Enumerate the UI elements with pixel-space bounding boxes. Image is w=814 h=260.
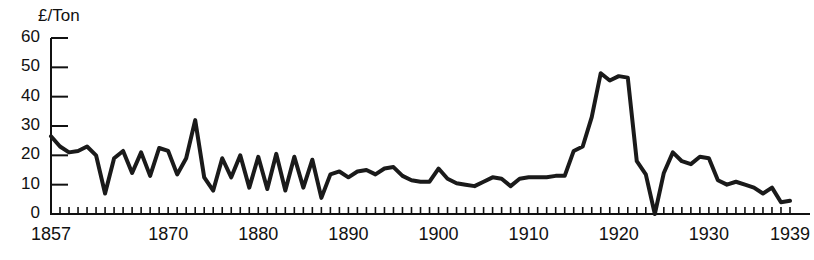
x-tick-label-1900: 1900 <box>418 224 458 245</box>
axis-frame <box>51 38 810 214</box>
x-tick-label-1920: 1920 <box>599 224 639 245</box>
x-tick-label-1880: 1880 <box>238 224 278 245</box>
y-tick-label-60: 60 <box>6 27 40 47</box>
x-tick-label-1939: 1939 <box>770 224 810 245</box>
y-tick-label-10: 10 <box>6 174 40 194</box>
x-axis-ticks <box>51 207 790 214</box>
x-tick-label-1890: 1890 <box>328 224 368 245</box>
x-tick-label-1930: 1930 <box>689 224 729 245</box>
x-tick-label-1910: 1910 <box>509 224 549 245</box>
y-tick-label-40: 40 <box>6 86 40 106</box>
x-tick-label-1870: 1870 <box>148 224 188 245</box>
y-tick-label-30: 30 <box>6 115 40 135</box>
y-tick-label-20: 20 <box>6 144 40 164</box>
y-axis-ticks <box>51 38 68 185</box>
data-series-group <box>51 73 790 214</box>
axis-lines <box>51 38 810 214</box>
price-chart: £/Ton 0102030405060 18571870188018901900… <box>0 0 814 260</box>
x-tick-label-1857: 1857 <box>31 224 71 245</box>
y-tick-label-0: 0 <box>6 203 40 223</box>
series-line-price <box>51 73 790 214</box>
chart-plot-area <box>0 0 814 260</box>
y-tick-label-50: 50 <box>6 56 40 76</box>
